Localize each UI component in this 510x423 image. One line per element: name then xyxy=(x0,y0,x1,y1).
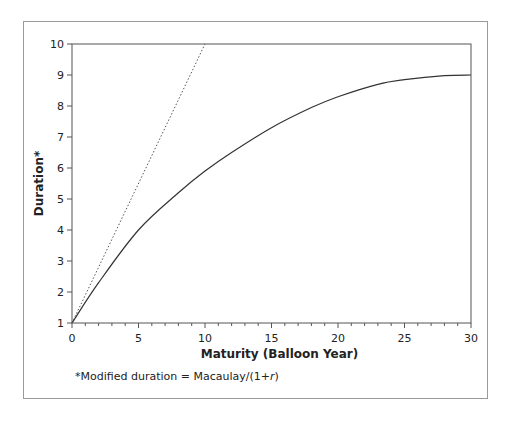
x-tick-label: 10 xyxy=(198,332,212,345)
y-tick-label: 1 xyxy=(57,317,64,330)
y-tick-label: 5 xyxy=(57,193,64,206)
x-tick-label: 30 xyxy=(464,332,478,345)
y-tick-label: 2 xyxy=(57,286,64,299)
y-tick-label: 4 xyxy=(57,224,64,237)
x-tick-label: 25 xyxy=(398,332,412,345)
reference-dotted-line xyxy=(72,44,205,323)
x-tick-label: 0 xyxy=(69,332,76,345)
y-tick-label: 7 xyxy=(57,131,64,144)
y-tick-label: 10 xyxy=(50,38,64,51)
y-tick-label: 3 xyxy=(57,255,64,268)
y-tick-label: 8 xyxy=(57,100,64,113)
plot-area xyxy=(72,44,471,323)
duration-chart: 12345678910051015202530Maturity (Balloon… xyxy=(0,0,510,423)
y-tick-label: 9 xyxy=(57,69,64,82)
x-axis-title: Maturity (Balloon Year) xyxy=(201,347,358,361)
x-tick-label: 15 xyxy=(265,332,279,345)
y-axis-title: Duration* xyxy=(32,150,46,216)
footnote: *Modified duration = Macaulay/(1+r) xyxy=(75,370,279,383)
y-tick-label: 6 xyxy=(57,162,64,175)
x-tick-label: 5 xyxy=(135,332,142,345)
duration-curve xyxy=(72,75,471,323)
x-tick-label: 20 xyxy=(331,332,345,345)
